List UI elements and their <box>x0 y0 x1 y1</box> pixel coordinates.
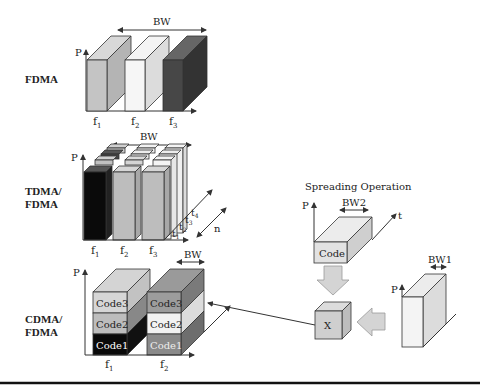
t-axis-label: t <box>398 210 402 221</box>
tdma-block-f1 <box>84 166 112 240</box>
p-axis-label: P <box>75 47 82 58</box>
p-axis-label: P <box>71 152 78 163</box>
code1-label: Code1 <box>96 340 128 351</box>
bw-label: BW <box>140 131 158 142</box>
code2-label: Code2 <box>150 319 182 330</box>
down-arrow-icon <box>317 266 349 295</box>
tdma-fdma-section: TDMA/ FDMA BW P <box>25 131 226 259</box>
n-label: n <box>214 223 221 234</box>
multiplier-label: X <box>324 320 332 331</box>
p-axis-label: P <box>391 284 398 295</box>
freq-label-f2: f2 <box>120 244 129 259</box>
t-axis <box>372 214 396 240</box>
connector-arrow <box>208 303 315 325</box>
cdma-stack-f2: Code3 Code2 Code1 <box>147 269 204 355</box>
code3-label: Code3 <box>150 298 182 309</box>
cdma-label-line2: FDMA <box>25 326 58 338</box>
freq-label-f1: f1 <box>93 115 102 130</box>
code2-label: Code2 <box>96 319 128 330</box>
fdma-block-f2 <box>125 36 169 111</box>
freq-label-f1: f1 <box>91 244 100 259</box>
p-axis-label: P <box>73 267 80 278</box>
tdma-block-f3 <box>142 166 170 240</box>
spreading-title: Spreading Operation <box>305 181 412 192</box>
code-label: Code <box>319 248 345 259</box>
cdma-label-line1: CDMA/ <box>25 313 63 325</box>
p-axis-label: P <box>302 200 309 211</box>
bw1-label: BW1 <box>428 254 452 265</box>
cdma-fdma-section: CDMA/ FDMA BW P Code3 Code2 Code1 <box>25 249 230 373</box>
fdma-label: FDMA <box>25 73 58 85</box>
freq-label-f2: f2 <box>131 115 140 130</box>
bw-label: BW <box>184 249 202 260</box>
fdma-block-f1 <box>87 36 131 111</box>
cdma-stack-f1: Code3 Code2 Code1 <box>93 269 150 355</box>
t-axis <box>204 306 230 332</box>
freq-label-f2: f2 <box>160 358 169 373</box>
tdma-label-line1: TDMA/ <box>25 185 63 197</box>
bw-label: BW <box>153 16 171 27</box>
left-arrow-icon <box>357 308 385 336</box>
tdma-block-f2 <box>113 166 141 240</box>
code-block: P BW2 t Code <box>302 197 402 263</box>
freq-label-f1: f1 <box>105 358 114 373</box>
time-label-t4: t4 <box>191 208 199 219</box>
spreading-operation-section: Spreading Operation P BW2 t Code X <box>208 181 456 347</box>
code1-label: Code1 <box>150 340 182 351</box>
fdma-section: FDMA P BW f1 f2 f3 <box>25 16 207 130</box>
signal-block: P BW1 <box>391 254 456 347</box>
multiplier-block: X <box>315 302 351 339</box>
multiple-access-diagram: FDMA P BW f1 f2 f3 TDMA/ FD <box>0 0 480 389</box>
tdma-label-line2: FDMA <box>25 198 58 210</box>
freq-label-f3: f3 <box>149 244 158 259</box>
n-arrow <box>197 208 226 237</box>
code3-label: Code3 <box>96 298 128 309</box>
freq-label-f3: f3 <box>169 115 178 130</box>
fdma-block-f3 <box>163 36 207 111</box>
bw2-label: BW2 <box>342 197 366 208</box>
